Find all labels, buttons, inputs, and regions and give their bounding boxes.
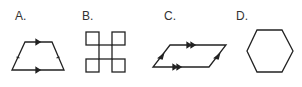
shapes-figure xyxy=(0,0,302,87)
option-c-parallelogram xyxy=(153,43,226,70)
option-d-hexagon xyxy=(247,30,293,72)
option-b-squares xyxy=(86,32,125,72)
option-a-trapezoid xyxy=(12,40,64,73)
